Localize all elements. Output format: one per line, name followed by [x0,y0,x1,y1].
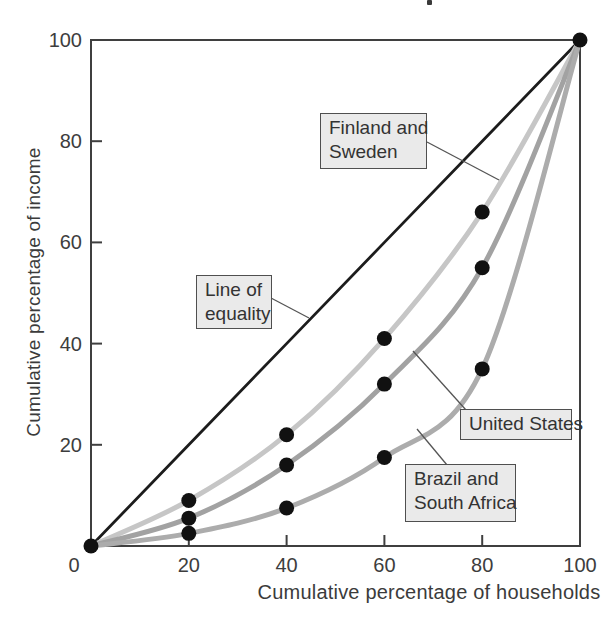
callout-line: Sweden [329,140,418,164]
data-point-marker [377,450,392,465]
chart-canvas: 20406080100020406080100 [0,0,614,626]
data-point-marker [279,427,294,442]
x-tick-label: 60 [373,554,395,576]
lorenz-curve-figure: 20406080100020406080100 Cumulative perce… [0,0,614,626]
x-tick-label: 80 [471,554,493,576]
y-tick-label: 60 [60,231,82,253]
y-axis-title: Cumulative percentage of income [23,147,45,436]
data-point-marker [181,511,196,526]
brazil-south-africa-label-leader-line [417,429,447,465]
y-tick-label: 80 [60,130,82,152]
y-tick-label: 20 [60,434,82,456]
united-states-label-leader-line [413,351,466,410]
data-point-marker [279,458,294,473]
brazil-south-africa-label: Brazil andSouth Africa [405,464,516,522]
data-point-marker [181,493,196,508]
data-point-marker [84,539,99,554]
data-point-marker [475,260,490,275]
y-tick-label: 40 [60,333,82,355]
finland-sweden-label: Finland andSweden [320,113,427,169]
data-point-marker [573,33,588,48]
callout-line: United States [469,412,563,436]
data-point-marker [377,331,392,346]
callout-line: South Africa [414,491,507,515]
data-point-marker [181,526,196,541]
x-tick-label: 40 [275,554,297,576]
x-axis-title: Cumulative percentage of households [258,581,601,604]
callout-line: Brazil and [414,467,507,491]
data-point-marker [475,361,490,376]
data-point-marker [279,501,294,516]
callout-line: Line of [205,278,263,302]
line-of-equality-label-leader-line [271,298,309,318]
data-point-marker [475,205,490,220]
x-tick-label: 20 [178,554,200,576]
finland-sweden-label-leader-line [427,142,499,180]
x-tick-label: 100 [563,554,596,576]
united-states-label: United States [460,409,572,440]
y-tick-label: 100 [49,29,82,51]
x-tick-label: 0 [68,554,79,576]
cropped-character-artifact [427,0,432,5]
callout-line: equality [205,302,263,326]
callout-line: Finland and [329,116,418,140]
data-point-marker [377,377,392,392]
line-of-equality-label: Line ofequality [196,275,272,329]
